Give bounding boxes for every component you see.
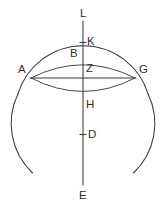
point-label-L: L (80, 8, 86, 20)
point-label-A: A (18, 64, 26, 76)
diagram-canvas (0, 0, 165, 209)
large-circle-arc-right-tail (134, 94, 155, 173)
point-label-E: E (79, 190, 87, 202)
point-label-Z: Z (86, 63, 93, 75)
point-label-B: B (70, 48, 78, 60)
point-label-D: D (88, 129, 96, 141)
point-label-K: K (87, 36, 95, 48)
geometric-diagram: L K B A Z G H D E (0, 0, 165, 209)
point-label-G: G (139, 64, 148, 76)
large-circle-arc-left-tail (11, 94, 32, 173)
point-label-H: H (86, 99, 94, 111)
